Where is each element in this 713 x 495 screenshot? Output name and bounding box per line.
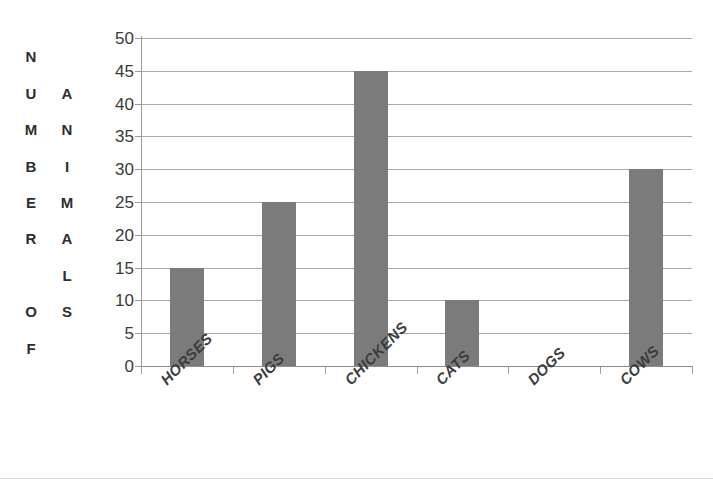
y-axis-tick-label: 10 [86,292,134,309]
gridline [141,136,692,137]
x-axis-tick-mark [233,367,234,374]
x-axis-tick-mark [417,367,418,374]
y-axis-tick-label: 30 [86,161,134,178]
bar [354,71,388,366]
y-axis-tick-mark [135,300,142,301]
x-axis-tick-mark [508,367,509,374]
gridline [141,38,692,39]
y-axis-tick-labels: 05101520253035404550 [84,0,134,495]
y-axis-title-letter: I [54,158,80,173]
y-axis-tick-mark [135,202,142,203]
gridline [141,202,692,203]
y-axis-tick-mark [135,71,142,72]
y-axis-title-letter: B [18,158,44,173]
y-axis-tick-label: 15 [86,259,134,276]
y-axis-tick-mark [135,104,142,105]
y-axis-title-letter: N [18,49,44,64]
y-axis-tick-label: 0 [86,358,134,375]
gridline [141,333,692,334]
gridline [141,169,692,170]
y-axis-tick-label: 45 [86,62,134,79]
y-axis-title-letter: O [18,304,44,319]
y-axis-tick-label: 25 [86,194,134,211]
y-axis-title-letter: S [54,304,80,319]
y-axis-title-letter: M [54,195,80,210]
plot-area [141,38,692,366]
y-axis-title-letter: M [18,122,44,137]
y-axis-title-letter: E [18,195,44,210]
y-axis-title-letter: N [54,122,80,137]
y-axis-tick-mark [135,169,142,170]
y-axis-title-letter: A [54,85,80,100]
y-axis-title-number-of: NUMBEROF [18,38,44,368]
gridline [141,71,692,72]
y-axis-tick-mark [135,38,142,39]
x-axis-tick-mark [600,367,601,374]
y-axis-title-letter: U [18,85,44,100]
y-axis-tick-label: 35 [86,128,134,145]
y-axis-tick-label: 20 [86,226,134,243]
y-axis-tick-label: 50 [86,30,134,47]
x-axis-tick-mark [141,367,142,374]
y-axis-title-letter: F [18,340,44,355]
gridline [141,268,692,269]
bar [629,169,663,366]
y-axis-tick-mark [135,268,142,269]
y-axis-tick-mark [135,235,142,236]
y-axis-title-letter: R [18,231,44,246]
y-axis-tick-label: 40 [86,95,134,112]
y-axis-tick-mark [135,136,142,137]
y-axis-title-letter: L [54,267,80,282]
gridline [141,104,692,105]
gridline [141,300,692,301]
y-axis-title-letter: A [54,231,80,246]
bar-chart: 05101520253035404550 HORSESPIGSCHICKENSC… [0,0,713,495]
gridline [141,235,692,236]
x-axis-tick-mark [325,367,326,374]
y-axis-tick-mark [135,333,142,334]
y-axis-tick-label: 5 [86,325,134,342]
y-axis-title-animals: ANIMALS [54,38,80,368]
bar [262,202,296,366]
x-axis-tick-mark [692,367,693,374]
